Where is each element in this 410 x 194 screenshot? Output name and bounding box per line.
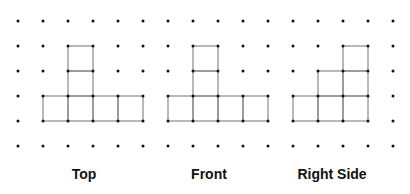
cell: [168, 96, 193, 121]
grid-dot: [392, 20, 395, 23]
cell: [218, 96, 243, 121]
grid-dot: [367, 120, 370, 123]
cell: [43, 96, 68, 121]
grid-dot: [392, 145, 395, 148]
grid-dot: [217, 45, 220, 48]
grid-dot: [217, 20, 220, 23]
grid-dot: [367, 70, 370, 73]
grid-dot: [117, 120, 120, 123]
grid-dot: [392, 45, 395, 48]
grid-dot: [117, 95, 120, 98]
grid-dot: [342, 145, 345, 148]
grid-dot: [117, 70, 120, 73]
grid-dot: [342, 70, 345, 73]
cell: [343, 46, 368, 71]
grid-dot: [42, 20, 45, 23]
grid-dot: [167, 95, 170, 98]
grid-dot: [267, 70, 270, 73]
grid-dot: [192, 145, 195, 148]
label-front: Front: [191, 166, 227, 182]
grid-dot: [367, 20, 370, 23]
cell: [293, 96, 318, 121]
grid-dot: [42, 95, 45, 98]
grid-dot: [42, 70, 45, 73]
outline-top: [43, 46, 143, 121]
outline-right-side: [293, 46, 368, 121]
grid-dot: [217, 145, 220, 148]
cell: [243, 96, 268, 121]
grid-dot: [192, 45, 195, 48]
grid-dot: [242, 120, 245, 123]
grid-dot: [67, 70, 70, 73]
grid-dot: [242, 70, 245, 73]
grid-dot: [317, 70, 320, 73]
grid-dot: [267, 45, 270, 48]
grid-dot: [367, 145, 370, 148]
cell: [68, 46, 93, 71]
grid-dot: [367, 95, 370, 98]
grid-dot: [167, 70, 170, 73]
grid-dot: [67, 145, 70, 148]
grid-dot: [267, 20, 270, 23]
grid-dot: [67, 20, 70, 23]
grid-dot: [17, 45, 20, 48]
cell: [318, 71, 343, 96]
grid-dot: [142, 20, 145, 23]
cell: [343, 96, 368, 121]
grid-dot: [242, 20, 245, 23]
grid-dot: [117, 145, 120, 148]
grid-dot: [217, 70, 220, 73]
grid-dot: [292, 70, 295, 73]
label-top: Top: [72, 166, 97, 182]
view-outlines: [43, 46, 368, 121]
grid-dot: [267, 95, 270, 98]
grid-dot: [317, 95, 320, 98]
cell: [68, 96, 93, 121]
grid-dot: [167, 120, 170, 123]
grid-dot: [292, 95, 295, 98]
label-right-side: Right Side: [297, 166, 366, 182]
grid-dot: [17, 120, 20, 123]
grid-dot: [42, 145, 45, 148]
cell: [193, 96, 218, 121]
grid-dot: [92, 95, 95, 98]
grid-dot: [142, 120, 145, 123]
grid-dot: [267, 145, 270, 148]
grid-dot: [292, 20, 295, 23]
grid-dot: [142, 70, 145, 73]
grid-dot: [92, 20, 95, 23]
grid-dot: [92, 70, 95, 73]
grid-dot: [42, 120, 45, 123]
cell: [68, 71, 93, 96]
grid-dot: [342, 45, 345, 48]
grid-dot: [217, 95, 220, 98]
grid-dot: [367, 45, 370, 48]
grid-dot: [17, 145, 20, 148]
grid-dot: [17, 70, 20, 73]
grid-dot: [342, 95, 345, 98]
grid-dot: [117, 20, 120, 23]
grid-dot: [192, 120, 195, 123]
grid-dot: [242, 45, 245, 48]
grid-dot: [117, 45, 120, 48]
grid-dot: [217, 120, 220, 123]
grid-dot: [142, 45, 145, 48]
grid-dot: [67, 95, 70, 98]
cell: [193, 46, 218, 71]
cell: [93, 96, 118, 121]
cell: [118, 96, 143, 121]
grid-dot: [167, 45, 170, 48]
grid-dot: [17, 95, 20, 98]
grid-dot: [92, 145, 95, 148]
outline-front: [168, 46, 268, 121]
dot-grid: [17, 20, 395, 148]
cell: [318, 96, 343, 121]
cell: [343, 71, 368, 96]
grid-dot: [392, 70, 395, 73]
grid-dot: [192, 20, 195, 23]
grid-dot: [292, 45, 295, 48]
grid-dot: [317, 45, 320, 48]
grid-dot: [392, 120, 395, 123]
grid-dot: [142, 95, 145, 98]
grid-dot: [167, 145, 170, 148]
